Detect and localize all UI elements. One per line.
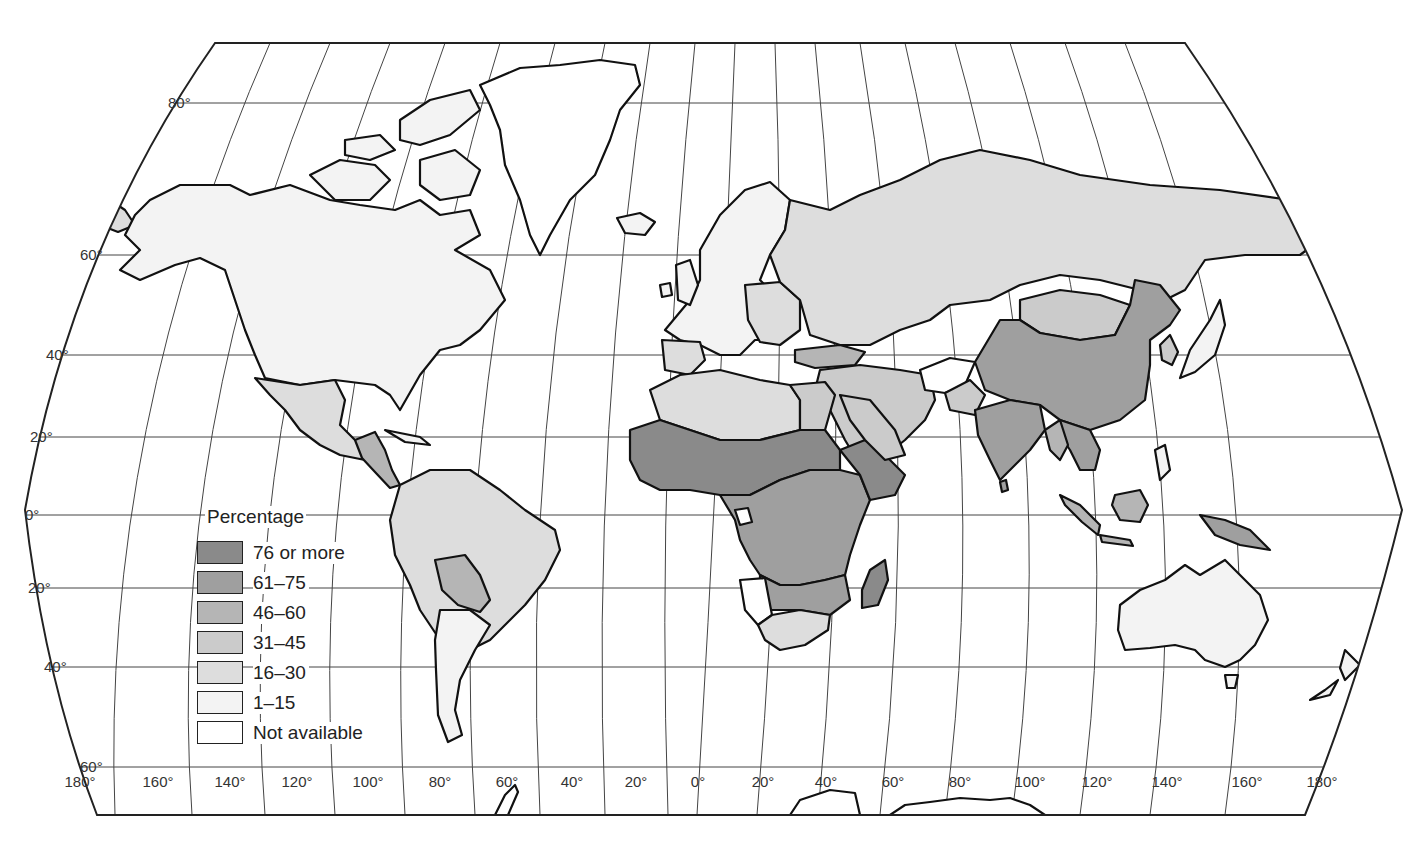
legend-label: 61–75 xyxy=(253,572,309,594)
legend-swatch xyxy=(197,631,243,654)
lat-label: 20° xyxy=(30,428,53,445)
legend-label: 46–60 xyxy=(253,602,309,624)
region-borneo xyxy=(1112,490,1148,522)
lon-label: 20° xyxy=(625,773,648,790)
lon-label: 0° xyxy=(691,773,705,790)
lon-label: 160° xyxy=(1231,773,1262,790)
legend-swatch xyxy=(197,691,243,714)
legend-item: Not available xyxy=(197,720,366,745)
region-tasmania xyxy=(1225,675,1238,688)
legend-title: Percentage xyxy=(205,506,306,528)
legend-label: 31–45 xyxy=(253,632,309,654)
lon-label: 60° xyxy=(496,773,519,790)
lat-label: 40° xyxy=(44,658,67,675)
legend-swatch xyxy=(197,661,243,684)
region-british-isles xyxy=(660,260,698,305)
region-iberia xyxy=(662,340,705,375)
region-australia xyxy=(1118,560,1268,667)
lat-label: 80° xyxy=(168,94,191,111)
legend-item: 61–75 xyxy=(197,570,309,595)
region-new-guinea xyxy=(1200,515,1270,550)
lat-label: 40° xyxy=(46,346,69,363)
legend-swatch xyxy=(197,571,243,594)
lon-label: 140° xyxy=(1151,773,1182,790)
region-madagascar xyxy=(862,560,888,608)
lon-label: 40° xyxy=(815,773,838,790)
region-iceland xyxy=(617,213,655,235)
legend-label: 1–15 xyxy=(253,692,298,714)
lon-label: 120° xyxy=(281,773,312,790)
longitude-labels: 180° 160° 140° 120° 100° 80° 60° 40° 20°… xyxy=(64,773,1337,790)
region-arctic-islands xyxy=(310,90,480,200)
legend-item: 16–30 xyxy=(197,660,309,685)
lat-label: 60° xyxy=(80,246,103,263)
region-java xyxy=(1100,535,1133,546)
region-turkey xyxy=(795,345,865,368)
region-sri-lanka xyxy=(1000,480,1008,492)
legend-swatch xyxy=(197,541,243,564)
region-india xyxy=(975,400,1045,480)
region-argentina xyxy=(435,610,490,742)
legend-item: 76 or more xyxy=(197,540,348,565)
legend-label: 16–30 xyxy=(253,662,309,684)
lon-label: 160° xyxy=(142,773,173,790)
legend-swatch xyxy=(197,721,243,744)
region-korea xyxy=(1160,335,1178,365)
legend-swatch xyxy=(197,601,243,624)
lon-label: 140° xyxy=(214,773,245,790)
lat-label: 20° xyxy=(28,579,51,596)
legend-item: 1–15 xyxy=(197,690,298,715)
region-new-zealand xyxy=(1310,650,1360,700)
lon-label: 100° xyxy=(352,773,383,790)
region-philippines xyxy=(1155,445,1170,480)
region-antarctica-1 xyxy=(790,790,860,815)
lon-label: 100° xyxy=(1014,773,1045,790)
legend-item: 31–45 xyxy=(197,630,309,655)
region-greenland xyxy=(480,60,640,255)
lon-label: 20° xyxy=(752,773,775,790)
lon-label: 60° xyxy=(882,773,905,790)
lon-label: 180° xyxy=(1306,773,1337,790)
lon-label: 80° xyxy=(949,773,972,790)
lon-label: 180° xyxy=(64,773,95,790)
lat-label: 0° xyxy=(25,506,39,523)
lon-label: 40° xyxy=(561,773,584,790)
region-antarctica-2 xyxy=(890,798,1045,815)
legend-label: 76 or more xyxy=(253,542,348,564)
legend-item: 46–60 xyxy=(197,600,309,625)
lon-label: 80° xyxy=(429,773,452,790)
legend-label: Not available xyxy=(253,722,366,744)
lon-label: 120° xyxy=(1081,773,1112,790)
